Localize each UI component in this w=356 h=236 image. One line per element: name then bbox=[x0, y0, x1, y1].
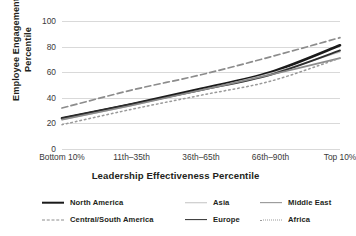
chart-legend: North AmericaAsiaMiddle EastCentral/Sout… bbox=[42, 196, 342, 230]
x-axis-tick-1: 11th–35th bbox=[113, 152, 150, 162]
legend-item-middle-east[interactable]: Middle East bbox=[260, 196, 331, 209]
legend-swatch-icon bbox=[42, 198, 64, 207]
legend-swatch-icon bbox=[260, 215, 282, 224]
x-axis-tick-0: Bottom 10% bbox=[39, 152, 85, 162]
legend-item-central-south-america[interactable]: Central/South America bbox=[42, 213, 154, 226]
legend-swatch-icon bbox=[185, 198, 207, 207]
legend-label: Middle East bbox=[288, 198, 331, 207]
y-axis-title: Employee Engagement Percentile bbox=[11, 0, 34, 124]
series-line-3 bbox=[62, 50, 340, 118]
legend-label: North America bbox=[70, 198, 123, 207]
legend-swatch-icon bbox=[260, 198, 282, 207]
legend-item-asia[interactable]: Asia bbox=[185, 196, 229, 209]
y-axis-title-line1: Employee Engagement bbox=[11, 0, 23, 124]
y-axis-tick-2: 40 bbox=[47, 93, 56, 103]
legend-item-north-america[interactable]: North America bbox=[42, 196, 123, 209]
y-axis-tick-4: 80 bbox=[47, 42, 56, 52]
y-axis-title-line2: Percentile bbox=[22, 0, 34, 124]
series-line-1 bbox=[62, 38, 340, 108]
x-axis-tick-4: Top 10% bbox=[324, 152, 356, 162]
legend-swatch-icon bbox=[42, 215, 64, 224]
y-axis-tick-1: 20 bbox=[47, 118, 56, 128]
legend-label: Central/South America bbox=[70, 215, 154, 224]
legend-item-africa[interactable]: Africa bbox=[260, 213, 310, 226]
legend-swatch-icon bbox=[185, 215, 207, 224]
legend-label: Asia bbox=[213, 198, 229, 207]
series-layer bbox=[62, 21, 340, 149]
x-axis-title: Leadership Effectiveness Percentile bbox=[0, 170, 351, 181]
x-axis-tick-3: 66th–90th bbox=[252, 152, 289, 162]
legend-label: Africa bbox=[288, 215, 310, 224]
y-axis-tick-3: 60 bbox=[47, 67, 56, 77]
y-axis-tick-5: 100 bbox=[42, 16, 56, 26]
gridline bbox=[62, 149, 340, 150]
series-line-0 bbox=[62, 45, 340, 118]
plot-area: 020406080100 bbox=[62, 21, 340, 149]
x-axis-tick-labels: Bottom 10%11th–35th36th–65th66th–90thTop… bbox=[62, 152, 340, 166]
x-axis-tick-2: 36th–65th bbox=[182, 152, 219, 162]
legend-item-europe[interactable]: Europe bbox=[185, 213, 240, 226]
legend-label: Europe bbox=[213, 215, 240, 224]
